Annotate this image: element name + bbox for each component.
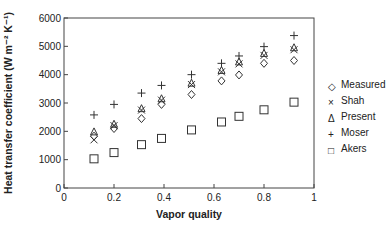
legend: ◇ Measured × Shah Δ Present + Moser □ Ak… bbox=[328, 77, 385, 157]
y-tick-label: 6000 bbox=[39, 13, 62, 24]
legend-item-shah: × Shah bbox=[328, 93, 385, 109]
x-tick-label: 0.6 bbox=[207, 192, 221, 203]
legend-item-akers: □ Akers bbox=[328, 141, 385, 157]
x-tick-label: 1 bbox=[311, 192, 317, 203]
y-tick-label: 1000 bbox=[39, 154, 62, 165]
legend-label: Present bbox=[341, 109, 375, 125]
plus-marker-icon: + bbox=[328, 127, 339, 139]
y-tick-label: 0 bbox=[55, 183, 61, 194]
series-measured bbox=[91, 57, 298, 141]
legend-label: Moser bbox=[341, 125, 369, 141]
plot-frame bbox=[64, 18, 314, 188]
y-tick-label: 2000 bbox=[39, 126, 62, 137]
y-axis-title: Heat transfer coefficient (W m⁻² K⁻¹) bbox=[2, 12, 14, 194]
x-axis-ticks: 00.20.40.60.81 bbox=[61, 184, 317, 203]
y-tick-label: 3000 bbox=[39, 98, 62, 109]
x-marker-icon: × bbox=[328, 95, 339, 107]
diamond-marker-icon: ◇ bbox=[328, 79, 339, 91]
x-axis-title: Vapor quality bbox=[156, 208, 222, 220]
square-marker-icon: □ bbox=[328, 143, 339, 155]
triangle-marker-icon: Δ bbox=[328, 111, 339, 123]
x-tick-label: 0.2 bbox=[107, 192, 121, 203]
legend-label: Measured bbox=[341, 77, 385, 93]
legend-item-moser: + Moser bbox=[328, 125, 385, 141]
data-points bbox=[90, 32, 298, 163]
y-tick-label: 4000 bbox=[39, 69, 62, 80]
y-tick-label: 5000 bbox=[39, 41, 62, 52]
legend-item-present: Δ Present bbox=[328, 109, 385, 125]
legend-label: Akers bbox=[341, 141, 367, 157]
series-shah bbox=[91, 46, 298, 143]
x-tick-label: 0.8 bbox=[257, 192, 271, 203]
x-tick-label: 0 bbox=[61, 192, 67, 203]
series-akers bbox=[90, 98, 298, 163]
legend-label: Shah bbox=[341, 93, 364, 109]
legend-item-measured: ◇ Measured bbox=[328, 77, 385, 93]
x-tick-label: 0.4 bbox=[157, 192, 171, 203]
